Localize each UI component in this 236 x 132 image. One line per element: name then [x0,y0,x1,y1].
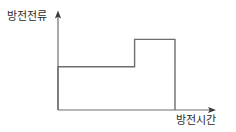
screenshot-root: 방전전류 방전시간 [0,0,236,132]
x-axis-label: 방전시간 [176,114,216,127]
y-axis-label: 방전전류 [7,10,47,23]
discharge-current-step-curve [58,39,175,110]
chart-figure: 방전전류 방전시간 [0,0,236,132]
